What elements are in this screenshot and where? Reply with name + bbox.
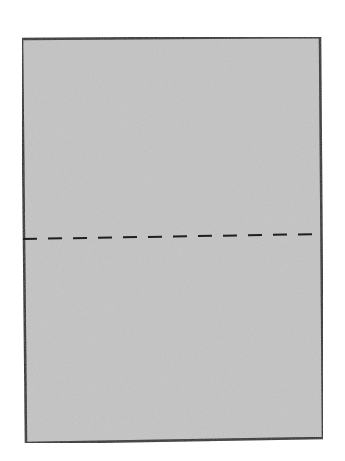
sheet-rectangle <box>22 37 323 443</box>
diagram-canvas <box>0 0 345 461</box>
folded-sheet-diagram <box>0 0 345 461</box>
